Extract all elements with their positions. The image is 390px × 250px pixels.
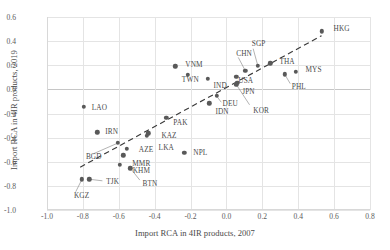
gridline-horizontal [47, 210, 370, 211]
x-tick-label: 0.8 [355, 212, 385, 221]
plot-area: HKGSGPTHAMYSPHLCHNVNMTWNINDUSAJPNKORDEUI… [47, 17, 370, 210]
label-leader-line [47, 17, 370, 210]
gridline-vertical [370, 17, 371, 210]
x-tick-label: -1.0 [32, 212, 62, 221]
x-tick-label: 0.4 [283, 212, 313, 221]
data-point-label: LAO [92, 104, 107, 111]
x-tick-label: 0.2 [247, 212, 277, 221]
x-tick-label: 0.6 [319, 212, 349, 221]
scatter-chart: HKGSGPTHAMYSPHLCHNVNMTWNINDUSAJPNKORDEUI… [0, 0, 390, 250]
x-tick-label: -0.2 [176, 212, 206, 221]
x-tick-label: 0.0 [211, 212, 241, 221]
y-axis-title: Import RCA in 4IR products, 2019 [9, 15, 19, 205]
x-tick-label: -0.8 [68, 212, 98, 221]
x-axis-title: Import RCA in 4IR products, 2007 [0, 228, 390, 238]
y-tick-label: -1.0 [0, 206, 16, 215]
data-point-label: KGZ [74, 192, 89, 199]
x-tick-label: -0.4 [140, 212, 170, 221]
x-tick-label: -0.6 [104, 212, 134, 221]
